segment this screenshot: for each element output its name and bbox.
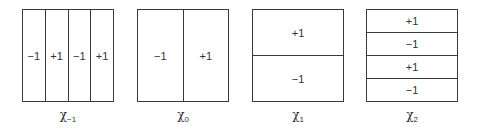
cell: −1 <box>367 78 457 101</box>
label-symbol: χ <box>60 108 67 122</box>
chi-1-box: +1 −1 <box>252 9 344 102</box>
cell: −1 <box>68 10 91 101</box>
cell: +1 <box>45 10 68 101</box>
cell: +1 <box>367 10 457 32</box>
chi-2-label: χ2 <box>366 108 458 124</box>
label-subscript: −1 <box>67 115 76 124</box>
cell: +1 <box>367 55 457 78</box>
chi-1-label: χ1 <box>252 108 344 124</box>
label-subscript: 0 <box>184 115 188 124</box>
chi-minus-1-label: χ−1 <box>22 108 114 124</box>
cell: −1 <box>367 32 457 55</box>
cell: −1 <box>138 10 183 101</box>
cell: +1 <box>183 10 229 101</box>
chi-2-box: +1 −1 +1 −1 <box>366 9 458 102</box>
chi-0-label: χ0 <box>137 108 229 124</box>
cell: −1 <box>253 55 343 101</box>
cell: −1 <box>23 10 45 101</box>
cell: +1 <box>90 10 113 101</box>
cell: +1 <box>253 10 343 55</box>
label-subscript: 2 <box>413 115 417 124</box>
label-subscript: 1 <box>299 115 303 124</box>
chi-minus-1-box: −1 +1 −1 +1 <box>22 9 114 102</box>
chi-0-box: −1 +1 <box>137 9 229 102</box>
